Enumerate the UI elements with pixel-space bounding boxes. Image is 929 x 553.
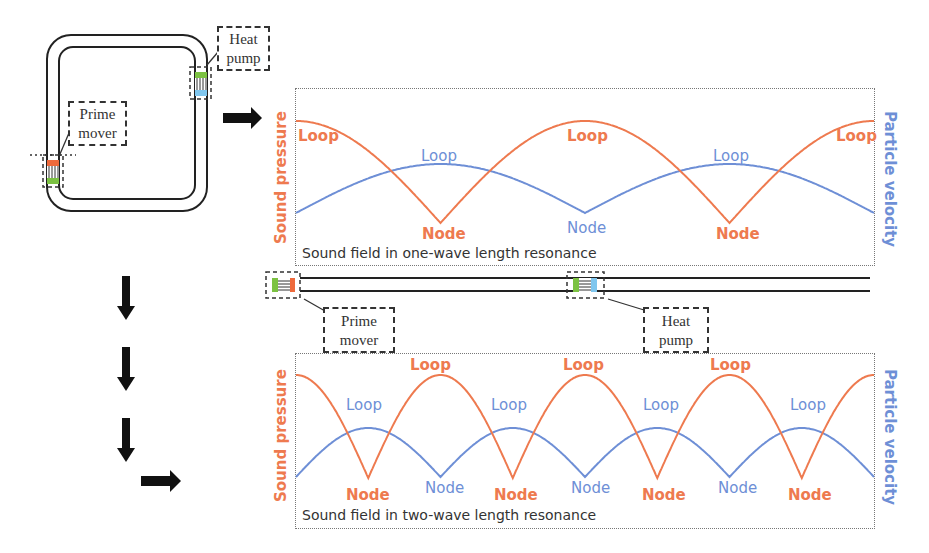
loop-tube-device: Heat pump Prime mover (0, 0, 280, 230)
two-wave-velocity-node-label: Node (718, 479, 757, 497)
label-line: Heat (645, 312, 707, 331)
one-wave-velocity-loop-label: Loop (713, 147, 749, 165)
label-line: Heat (219, 30, 268, 49)
one-wave-right-axis-label: Particle velocity (881, 109, 899, 249)
two-wave-pressure-loop-label: Loop (710, 356, 751, 374)
one-wave-pressure-loop-label: Loop (836, 127, 877, 145)
one-wave-pressure-node-label: Node (422, 225, 466, 243)
arrow-down-icon (117, 347, 135, 391)
one-wave-velocity-node-label: Node (567, 219, 606, 237)
straight-prime-mover-regenerator (266, 272, 300, 298)
one-wave-left-axis-label: Sound pressure (272, 114, 290, 244)
two-wave-caption: Sound field in two-wave length resonance (302, 507, 596, 523)
label-line: mover (70, 124, 125, 143)
straight-heat-pump-label: Heat pump (643, 307, 709, 353)
arrow-right-icon (141, 470, 181, 492)
label-line: pump (219, 49, 268, 68)
two-wave-pressure-node-label: Node (346, 486, 390, 504)
one-wave-chart-frame (295, 88, 875, 266)
two-wave-velocity-loop-label: Loop (346, 396, 382, 414)
arrow-down-icon (117, 418, 135, 462)
one-wave-pressure-loop-label: Loop (298, 127, 339, 145)
two-wave-pressure-node-label: Node (494, 486, 538, 504)
loop-prime-mover-label: Prime mover (68, 101, 127, 146)
label-line: Prime (70, 105, 125, 124)
two-wave-pressure-node-label: Node (788, 486, 832, 504)
two-wave-right-axis-label: Particle velocity (881, 367, 899, 507)
straight-prime-mover-label: Prime mover (323, 307, 395, 353)
one-wave-velocity-loop-label: Loop (421, 147, 457, 165)
two-wave-velocity-loop-label: Loop (790, 396, 826, 414)
one-wave-pressure-loop-label: Loop (567, 127, 608, 145)
straight-heat-pump-regenerator (567, 272, 604, 298)
label-line: pump (645, 331, 707, 350)
two-wave-pressure-node-label: Node (642, 486, 686, 504)
two-wave-velocity-node-label: Node (425, 479, 464, 497)
two-wave-left-axis-label: Sound pressure (272, 372, 290, 502)
label-line: Prime (325, 312, 393, 331)
two-wave-velocity-loop-label: Loop (643, 396, 679, 414)
two-wave-pressure-loop-label: Loop (563, 356, 604, 374)
one-wave-pressure-node-label: Node (716, 225, 760, 243)
two-wave-pressure-loop-label: Loop (410, 356, 451, 374)
loop-heat-pump-label: Heat pump (217, 26, 270, 71)
two-wave-velocity-node-label: Node (571, 479, 610, 497)
one-wave-caption: Sound field in one-wave length resonance (302, 245, 597, 261)
two-wave-velocity-loop-label: Loop (491, 396, 527, 414)
arrow-down-icon (117, 276, 135, 320)
label-line: mover (325, 331, 393, 350)
